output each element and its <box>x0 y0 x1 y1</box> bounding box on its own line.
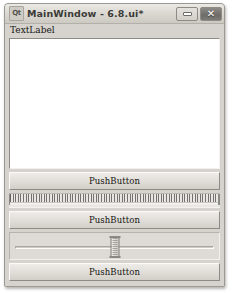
slider-handle-cap-bottom <box>109 256 120 258</box>
qt-logo-icon: Qt <box>9 6 24 21</box>
minimize-icon <box>183 12 192 16</box>
text-label: TextLabel <box>9 25 220 36</box>
slider-handle[interactable] <box>110 236 119 258</box>
tick-groove <box>10 202 219 206</box>
push-button-3[interactable]: PushButton <box>9 263 220 281</box>
central-widget: TextLabel PushButton PushButton PushButt… <box>5 24 224 286</box>
push-button-2[interactable]: PushButton <box>9 211 220 229</box>
horizontal-slider[interactable] <box>9 232 220 260</box>
text-edit[interactable] <box>9 38 220 169</box>
tick-endcap-right <box>218 194 220 205</box>
close-icon: ✕ <box>207 9 215 19</box>
qt-logo-glyph: Qt <box>12 10 20 17</box>
close-button[interactable]: ✕ <box>200 7 222 21</box>
main-window: Qt MainWindow - 6.8.ui* ✕ TextLabel Push… <box>4 3 225 287</box>
push-button-1[interactable]: PushButton <box>9 172 220 190</box>
tick-marks <box>10 194 219 202</box>
minimize-button[interactable] <box>176 7 198 21</box>
slider-handle-grip <box>112 238 117 256</box>
window-title: MainWindow - 6.8.ui* <box>27 9 174 19</box>
dial-tickmarks[interactable] <box>9 193 220 208</box>
window-titlebar[interactable]: Qt MainWindow - 6.8.ui* ✕ <box>5 4 224 24</box>
